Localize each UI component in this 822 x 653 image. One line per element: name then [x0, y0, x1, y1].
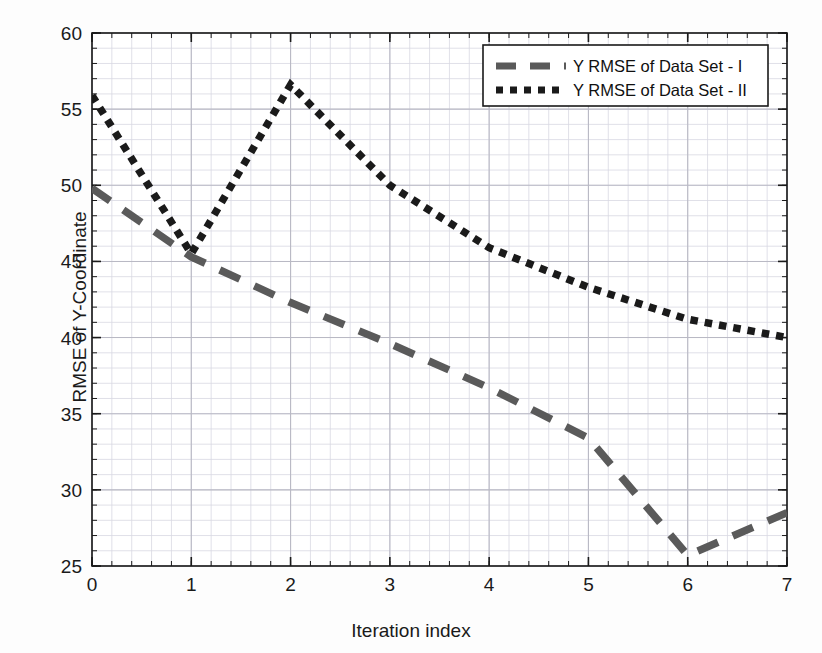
chart-plot: 01234567 2530354045505560 Y RMSE of Data…: [0, 0, 822, 653]
x-tick-label: 0: [87, 574, 98, 595]
x-tick-labels: 01234567: [87, 574, 793, 595]
x-axis-label: Iteration index: [0, 620, 822, 642]
x-tick-label: 7: [782, 574, 793, 595]
legend-label-dataset-1: Y RMSE of Data Set - I: [573, 57, 742, 75]
y-tick-label: 55: [61, 99, 82, 120]
y-tick-label: 25: [61, 556, 82, 577]
legend-label-dataset-2: Y RMSE of Data Set - II: [573, 81, 747, 99]
legend[interactable]: Y RMSE of Data Set - I Y RMSE of Data Se…: [483, 45, 768, 106]
x-tick-label: 2: [285, 574, 296, 595]
y-axis-label: RMSE of Y-Coordinate: [69, 127, 91, 487]
figure-canvas: 01234567 2530354045505560 Y RMSE of Data…: [0, 0, 822, 653]
x-tick-label: 3: [385, 574, 396, 595]
x-tick-label: 5: [583, 574, 594, 595]
x-tick-label: 6: [682, 574, 693, 595]
y-tick-label: 60: [61, 23, 82, 44]
x-tick-label: 4: [484, 574, 495, 595]
plot-background: [92, 33, 787, 566]
x-tick-label: 1: [186, 574, 197, 595]
